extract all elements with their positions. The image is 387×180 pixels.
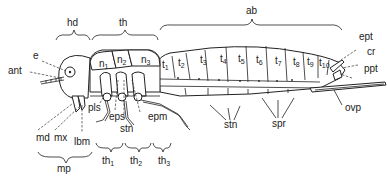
label-stn-abdomen: stn: [224, 119, 237, 130]
brace-thorax: [92, 30, 158, 40]
label-th1: th1: [102, 155, 114, 167]
brace-th3: [153, 143, 171, 152]
label-md: md: [36, 132, 50, 143]
brace-head: [56, 30, 90, 40]
label-ant: ant: [8, 65, 22, 76]
label-stn-thorax: stn: [120, 123, 133, 134]
leader-ant: [30, 72, 60, 78]
label-ab: ab: [246, 5, 258, 16]
leader-stn-ab: [210, 105, 240, 120]
label-eps: eps: [109, 111, 125, 122]
label-th: th: [119, 17, 127, 28]
label-hd: hd: [67, 17, 78, 28]
leader-spr: [262, 98, 294, 118]
brace-abdomen: [160, 19, 342, 30]
label-lbm: lbm: [74, 136, 90, 147]
leader-ovp: [334, 90, 342, 105]
label-th3: th3: [158, 155, 170, 167]
leader-md: [38, 104, 72, 130]
label-ovp: ovp: [345, 102, 362, 113]
label-ppt: ppt: [364, 63, 378, 74]
label-epm: epm: [148, 111, 167, 122]
head: [40, 55, 90, 112]
leader-cr: [342, 65, 358, 68]
brace-mouthparts: [38, 152, 92, 163]
label-pls: pls: [88, 102, 101, 113]
brace-th2: [125, 143, 151, 152]
insect-anatomy-diagram: hd th ab: [0, 0, 387, 180]
label-ept: ept: [359, 31, 373, 42]
leader-ept: [338, 50, 356, 62]
leader-mx: [55, 106, 80, 130]
label-th2: th2: [130, 155, 142, 167]
label-spr: spr: [272, 118, 287, 129]
label-mx: mx: [54, 132, 67, 143]
label-mp: mp: [57, 163, 71, 174]
label-e: e: [33, 50, 39, 61]
brace-th1: [96, 143, 123, 152]
label-cr: cr: [367, 46, 376, 57]
